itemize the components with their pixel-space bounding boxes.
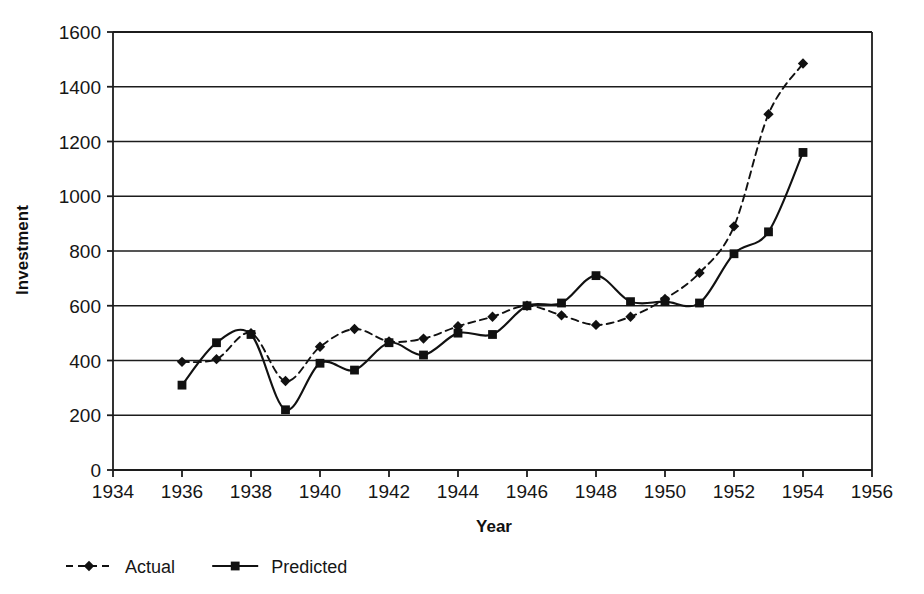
- datapoint-actual-1941: [349, 324, 359, 334]
- x-tick-label-1952: 1952: [713, 481, 755, 502]
- datapoint-actual-1948: [591, 320, 601, 330]
- y-tick-label-800: 800: [69, 241, 101, 262]
- x-axis-title: Year: [476, 517, 512, 536]
- datapoint-predicted-1937: [212, 338, 221, 347]
- datapoint-predicted-1939: [281, 405, 290, 414]
- x-tick-label-1954: 1954: [782, 481, 825, 502]
- legend-diamond-marker: [84, 561, 94, 571]
- datapoint-predicted-1944: [454, 329, 463, 338]
- y-tick-label-1400: 1400: [59, 77, 101, 98]
- datapoint-predicted-1951: [695, 299, 704, 308]
- y-axis-tick-labels: 16001400120010008006004002000: [59, 22, 101, 481]
- datapoint-actual-1952: [729, 221, 739, 231]
- y-tick-label-1000: 1000: [59, 186, 101, 207]
- datapoint-predicted-1950: [661, 297, 670, 306]
- datapoint-actual-1936: [177, 357, 187, 367]
- legend-label-predicted: Predicted: [271, 557, 347, 577]
- datapoint-predicted-1936: [178, 381, 187, 390]
- datapoint-predicted-1938: [247, 330, 256, 339]
- chart-legend: ActualPredicted: [66, 557, 347, 577]
- legend-square-marker: [231, 562, 240, 571]
- datapoint-actual-1947: [556, 310, 566, 320]
- datapoint-predicted-1942: [385, 338, 394, 347]
- datapoint-predicted-1945: [488, 330, 497, 339]
- datapoint-predicted-1949: [626, 297, 635, 306]
- y-tick-label-1200: 1200: [59, 132, 101, 153]
- series-predicted: [178, 148, 808, 414]
- datapoint-actual-1939: [280, 376, 290, 386]
- datapoint-predicted-1948: [592, 271, 601, 280]
- x-tick-label-1946: 1946: [506, 481, 548, 502]
- datapoint-actual-1953: [763, 109, 773, 119]
- y-tick-label-200: 200: [69, 405, 101, 426]
- datapoint-predicted-1947: [557, 299, 566, 308]
- y-tick-label-600: 600: [69, 296, 101, 317]
- y-tick-label-1600: 1600: [59, 22, 101, 43]
- datapoint-actual-1937: [211, 354, 221, 364]
- datapoint-predicted-1943: [419, 351, 428, 360]
- datapoint-actual-1945: [487, 312, 497, 322]
- x-tick-label-1934: 1934: [92, 481, 135, 502]
- datapoint-actual-1949: [625, 312, 635, 322]
- x-tick-label-1936: 1936: [161, 481, 203, 502]
- datapoint-predicted-1954: [799, 148, 808, 157]
- x-axis-ticks-group: [113, 470, 872, 477]
- x-tick-label-1942: 1942: [368, 481, 410, 502]
- gridlines-group: [113, 32, 872, 415]
- x-tick-label-1938: 1938: [230, 481, 272, 502]
- datapoint-predicted-1952: [730, 249, 739, 258]
- datapoint-predicted-1953: [764, 227, 773, 236]
- investment-line-chart: 16001400120010008006004002000 1934193619…: [0, 0, 924, 594]
- datapoint-predicted-1946: [523, 301, 532, 310]
- x-tick-label-1940: 1940: [299, 481, 341, 502]
- datapoint-predicted-1940: [316, 359, 325, 368]
- datapoint-predicted-1941: [350, 366, 359, 375]
- x-tick-label-1944: 1944: [437, 481, 480, 502]
- x-axis-tick-labels: 1934193619381940194219441946194819501952…: [92, 481, 893, 502]
- x-tick-label-1956: 1956: [851, 481, 893, 502]
- datapoint-actual-1943: [418, 333, 428, 343]
- y-tick-label-400: 400: [69, 351, 101, 372]
- x-tick-label-1948: 1948: [575, 481, 617, 502]
- x-tick-label-1950: 1950: [644, 481, 686, 502]
- legend-label-actual: Actual: [125, 557, 175, 577]
- y-tick-label-0: 0: [90, 460, 101, 481]
- chart-canvas: 16001400120010008006004002000 1934193619…: [0, 0, 924, 594]
- y-axis-title: Investment: [13, 205, 32, 295]
